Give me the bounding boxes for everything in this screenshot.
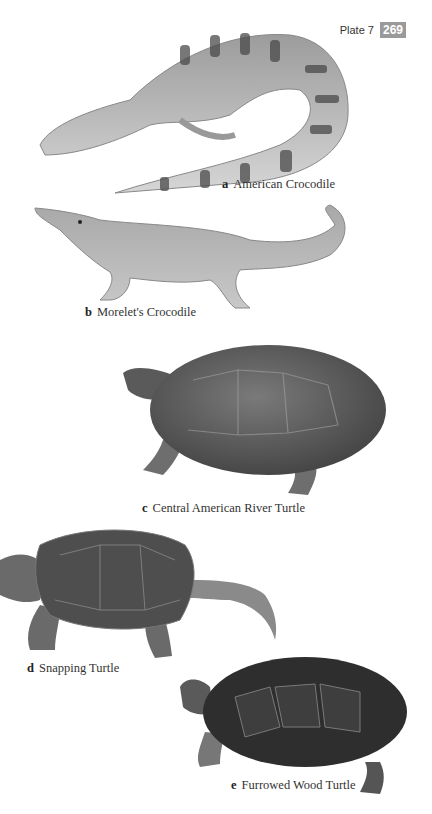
caption-a: aAmerican Crocodile	[222, 177, 335, 192]
caption-e: eFurrowed Wood Turtle	[231, 778, 356, 793]
caption-c: cCentral American River Turtle	[142, 501, 305, 516]
american-crocodile-illustration	[30, 5, 360, 195]
central-american-river-turtle-illustration	[118, 335, 398, 500]
caption-d: dSnapping Turtle	[27, 661, 119, 676]
caption-name: Furrowed Wood Turtle	[242, 778, 356, 792]
caption-name: Central American River Turtle	[153, 501, 305, 515]
furrowed-wood-turtle-illustration	[175, 652, 407, 797]
caption-letter: c	[142, 501, 148, 515]
caption-name: Morelet's Crocodile	[97, 305, 196, 319]
caption-letter: b	[85, 305, 92, 319]
page-number-badge: 269	[380, 22, 406, 38]
turtle-icon	[118, 335, 398, 500]
morelets-crocodile-illustration	[30, 200, 355, 310]
snapping-turtle-illustration	[0, 520, 285, 660]
caption-name: Snapping Turtle	[39, 661, 119, 675]
caption-letter: e	[231, 778, 237, 792]
crocodile-icon	[30, 5, 360, 195]
turtle-icon	[175, 652, 407, 797]
caption-letter: d	[27, 661, 34, 675]
turtle-icon	[0, 520, 285, 660]
caption-name: American Crocodile	[233, 177, 335, 191]
crocodile-icon	[30, 200, 355, 310]
caption-b: bMorelet's Crocodile	[85, 305, 196, 320]
caption-letter: a	[222, 177, 228, 191]
